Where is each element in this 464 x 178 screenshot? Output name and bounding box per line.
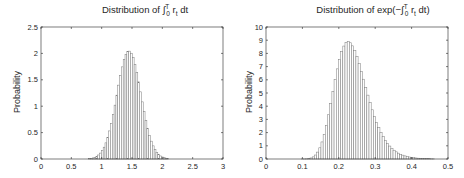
x-tick-label: 0.1 <box>297 162 307 171</box>
histogram-bar <box>356 57 358 159</box>
histogram-bar <box>141 102 143 159</box>
histogram-bar <box>352 46 354 159</box>
y-tick-label: 1 <box>34 102 38 111</box>
histogram-bar <box>384 140 386 159</box>
histogram-bar <box>389 146 391 159</box>
x-tick-label: 0.4 <box>406 162 416 171</box>
histogram-bar <box>391 148 393 159</box>
histogram-bar <box>312 157 314 159</box>
histogram-bar <box>336 69 338 159</box>
y-tick-label: 7 <box>259 62 263 71</box>
x-tick-label: 0.3 <box>370 162 380 171</box>
histogram-bar <box>386 143 388 159</box>
histogram-bar <box>314 155 316 159</box>
histogram-bar <box>143 112 145 159</box>
y-tick-label: 9 <box>259 36 263 45</box>
histogram-bar <box>400 154 402 159</box>
histogram-bar <box>323 134 325 159</box>
y-tick-label: 8 <box>259 49 263 58</box>
histogram-bar <box>376 122 378 159</box>
histogram-bar <box>129 51 131 159</box>
histogram-bar <box>338 59 340 159</box>
y-tick-label: 1.5 <box>28 75 38 84</box>
histogram-bars <box>89 51 169 159</box>
y-tick-label: 10 <box>255 23 263 32</box>
x-tick-label: 0.5 <box>443 162 453 171</box>
y-tick-label: 5 <box>259 89 263 98</box>
histogram-bar <box>358 64 360 159</box>
histogram-bar <box>138 82 140 159</box>
y-tick-label: 2.5 <box>28 23 38 32</box>
right-chart-panel: Distribution of exp(−∫T0 rt dt) Probabil… <box>232 0 464 178</box>
histogram-bar <box>349 43 351 159</box>
histogram-bar <box>103 147 105 159</box>
histogram-bar <box>362 79 364 159</box>
y-tick-label: 0 <box>34 155 38 164</box>
histogram-bar <box>321 142 323 159</box>
histogram-bar <box>395 152 397 159</box>
histogram-bar <box>347 42 349 159</box>
histogram-bar <box>123 60 125 159</box>
histogram-bar <box>136 73 138 159</box>
y-tick-label: 0 <box>259 155 263 164</box>
histogram-bar <box>367 95 369 159</box>
histogram-bar <box>332 91 334 159</box>
x-tick-label: 0.2 <box>334 162 344 171</box>
histogram-bar <box>360 71 362 159</box>
y-tick-label: 6 <box>259 75 263 84</box>
histogram-bar <box>369 103 371 159</box>
right-histogram: 00.10.20.30.40.5012345678910 <box>232 0 464 178</box>
x-tick-label: 0 <box>39 162 43 171</box>
histogram-bar <box>134 64 136 159</box>
histogram-bar <box>118 85 120 159</box>
histogram-bar <box>160 156 162 159</box>
histogram-bar <box>325 125 327 159</box>
x-tick-label: 1 <box>100 162 104 171</box>
y-tick-label: 2 <box>259 128 263 137</box>
left-histogram: 00.511.522.5300.511.522.5 <box>0 0 232 178</box>
histogram-bar <box>130 53 132 159</box>
histogram-bar <box>341 52 343 159</box>
histogram-bar <box>402 155 404 159</box>
histogram-bar <box>371 110 373 159</box>
histogram-bar <box>100 153 102 159</box>
histogram-bar <box>145 121 147 159</box>
histogram-bar <box>140 92 142 159</box>
x-tick-label: 0 <box>264 162 268 171</box>
x-tick-label: 2.5 <box>187 162 197 171</box>
histogram-bar <box>328 115 330 159</box>
y-tick-label: 2 <box>34 49 38 58</box>
histogram-bar <box>378 128 380 159</box>
histogram-bar <box>317 152 319 159</box>
histogram-bar <box>354 51 356 159</box>
histogram-bar <box>109 131 111 159</box>
x-tick-label: 0.5 <box>66 162 76 171</box>
histogram-bar <box>125 54 127 159</box>
y-tick-label: 3 <box>259 115 263 124</box>
histogram-bar <box>365 87 367 159</box>
histogram-bar <box>380 132 382 159</box>
histogram-bar <box>147 128 149 159</box>
x-tick-label: 2 <box>160 162 164 171</box>
histogram-bar <box>105 143 107 159</box>
y-tick-label: 0.5 <box>28 128 38 137</box>
histogram-bar <box>158 154 160 159</box>
histogram-bar <box>149 135 151 159</box>
histogram-bar <box>393 150 395 159</box>
histogram-bar <box>121 67 123 159</box>
histogram-bar <box>114 105 116 159</box>
histogram-bar <box>107 137 109 159</box>
histogram-bar <box>110 123 112 159</box>
histogram-bar <box>156 152 158 159</box>
histogram-bar <box>112 115 114 159</box>
histogram-bars <box>301 42 434 159</box>
histogram-bar <box>151 141 153 159</box>
histogram-bar <box>96 156 98 159</box>
histogram-bar <box>127 52 129 159</box>
histogram-bar <box>343 46 345 159</box>
histogram-bar <box>152 146 154 159</box>
x-tick-label: 3 <box>221 162 225 171</box>
histogram-bar <box>373 116 375 159</box>
histogram-bar <box>406 157 408 159</box>
y-tick-label: 4 <box>259 102 263 111</box>
